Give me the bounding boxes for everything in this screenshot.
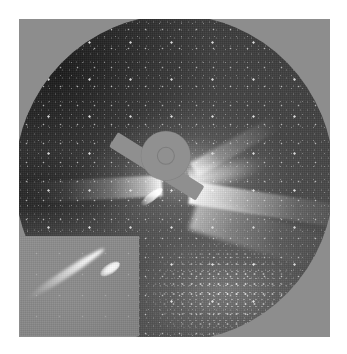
inset-grain [20,236,139,336]
occulting-disk [141,131,190,181]
comet-magnified-inset [20,236,139,336]
coronagraph-frame [19,19,330,337]
sun-position-circle [156,146,175,165]
image-canvas: Grayscale coronagraph image of the solar… [0,0,347,354]
